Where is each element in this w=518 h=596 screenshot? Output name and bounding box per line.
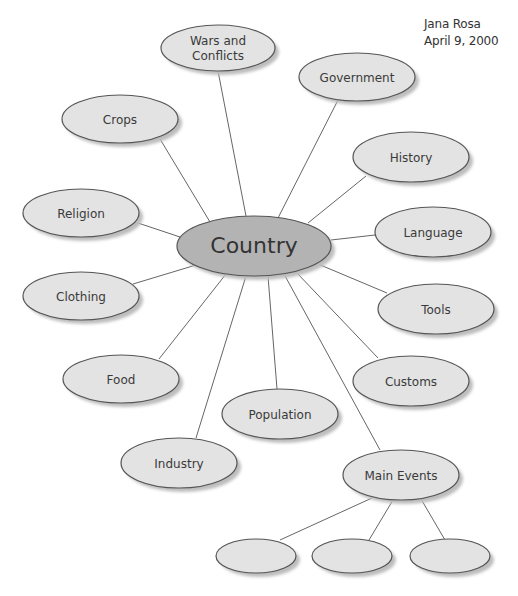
node-event-1[interactable]	[216, 539, 296, 573]
node-label: Main Events	[364, 469, 437, 483]
clothing-connector	[133, 265, 196, 284]
node-label: Wars and	[190, 34, 246, 48]
node-crops[interactable]: Crops	[62, 95, 178, 143]
food-connector	[159, 274, 226, 359]
node-label: Food	[107, 373, 136, 387]
node-history[interactable]: History	[353, 132, 469, 182]
wars-connector	[218, 71, 246, 216]
node-label: Crops	[103, 113, 137, 127]
population-connector	[268, 276, 277, 389]
node-label: Clothing	[56, 290, 106, 304]
node-label: Conflicts	[192, 49, 244, 63]
node-language[interactable]: Language	[375, 207, 491, 257]
node-population[interactable]: Population	[222, 389, 338, 439]
node-label: Customs	[385, 375, 437, 389]
node-label: Religion	[57, 207, 105, 221]
node-customs[interactable]: Customs	[353, 356, 469, 406]
node-food[interactable]: Food	[63, 355, 179, 403]
religion-connector	[135, 222, 180, 237]
tools-connector	[318, 264, 387, 293]
node-label: Country	[210, 233, 297, 258]
node-label: Population	[248, 408, 311, 422]
node-label: History	[390, 151, 433, 165]
concept-map: CountryWars andConflictsGovernmentCropsH…	[0, 0, 518, 596]
node-main-events[interactable]: Main Events	[343, 450, 459, 500]
node-country[interactable]: Country	[177, 216, 331, 276]
event-2-connector	[369, 500, 393, 540]
government-connector	[278, 100, 338, 218]
node-label: Tools	[420, 303, 451, 317]
node-label: Government	[320, 71, 395, 85]
node-label: Language	[403, 226, 462, 240]
node-event-3[interactable]	[410, 539, 490, 573]
node-ellipse[interactable]	[216, 539, 296, 573]
node-wars[interactable]: Wars andConflicts	[161, 25, 275, 71]
node-religion[interactable]: Religion	[23, 189, 139, 237]
crops-connector	[160, 139, 210, 222]
node-event-2[interactable]	[312, 539, 392, 573]
language-connector	[331, 235, 375, 240]
event-1-connector	[280, 498, 372, 540]
node-tools[interactable]: Tools	[378, 284, 494, 334]
event-3-connector	[421, 499, 445, 540]
customs-connector	[296, 272, 378, 358]
node-government[interactable]: Government	[299, 53, 415, 101]
node-industry[interactable]: Industry	[121, 438, 237, 488]
node-ellipse[interactable]	[312, 539, 392, 573]
concept-nodes: CountryWars andConflictsGovernmentCropsH…	[23, 25, 494, 573]
node-clothing[interactable]: Clothing	[23, 272, 139, 320]
history-connector	[308, 176, 366, 223]
node-ellipse[interactable]	[161, 25, 275, 71]
node-ellipse[interactable]	[410, 539, 490, 573]
node-label: Industry	[154, 457, 203, 471]
